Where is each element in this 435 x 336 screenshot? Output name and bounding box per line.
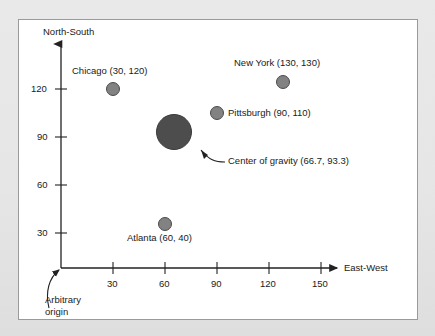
label-chicago: Chicago (30, 120): [72, 66, 148, 77]
label-new-york: New York (130, 130): [234, 58, 320, 69]
screenshot-root: Chicago (30, 120) New York (130, 130) Pi…: [0, 0, 435, 336]
marker-new-york[interactable]: [276, 75, 290, 89]
label-pittsburgh: Pittsburgh (90, 110): [228, 108, 311, 119]
marker-pittsburgh[interactable]: [210, 106, 224, 120]
marker-atlanta[interactable]: [158, 217, 172, 231]
x-axis-title: East-West: [344, 262, 388, 273]
y-tick-label-30: 30: [37, 227, 48, 238]
x-tick-label-60: 60: [159, 278, 170, 289]
cog-leader-arrowhead: [201, 150, 208, 159]
origin-annotation-line2: origin: [45, 306, 81, 318]
x-tick-label-150: 150: [312, 278, 328, 289]
x-tick-label-30: 30: [107, 278, 118, 289]
origin-annotation-line1: Arbitrary: [45, 294, 81, 306]
chart-panel: Chicago (30, 120) New York (130, 130) Pi…: [18, 19, 418, 320]
x-tick-label-120: 120: [260, 278, 276, 289]
y-tick-label-60: 60: [37, 179, 48, 190]
y-tick-label-90: 90: [37, 131, 48, 142]
label-atlanta: Atlanta (60, 40): [127, 233, 192, 244]
y-tick-label-120: 120: [31, 83, 47, 94]
x-tick-label-90: 90: [211, 278, 222, 289]
marker-center-of-gravity[interactable]: [156, 114, 192, 150]
y-axis-title: North-South: [43, 26, 94, 37]
marker-chicago[interactable]: [106, 82, 120, 96]
label-center-of-gravity: Center of gravity (66.7, 93.3): [228, 156, 349, 167]
origin-annotation: Arbitrary origin: [45, 294, 81, 317]
